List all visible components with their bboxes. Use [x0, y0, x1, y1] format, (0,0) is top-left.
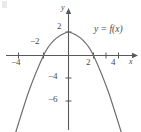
y-axis-arrowhead	[66, 8, 71, 14]
x-tick-label-neg2: −2	[30, 37, 40, 46]
y-tick-label-neg4: −4	[48, 72, 58, 81]
x-axis-label: x	[129, 58, 133, 66]
x-tick-label-2: 2	[86, 58, 91, 67]
x-tick-label-4: 4	[111, 58, 116, 67]
y-tick-label-neg6: −6	[48, 95, 58, 104]
plot-canvas	[0, 0, 141, 132]
y-tick-label-2: 2	[57, 22, 62, 31]
y-axis-label: y	[61, 4, 65, 12]
parabola-figure: −4 −2 2 4 2 −4 −6 y x y = f(x)	[0, 0, 141, 132]
function-label: y = f(x)	[94, 25, 123, 35]
x-tick-label-neg4: −4	[11, 58, 21, 67]
